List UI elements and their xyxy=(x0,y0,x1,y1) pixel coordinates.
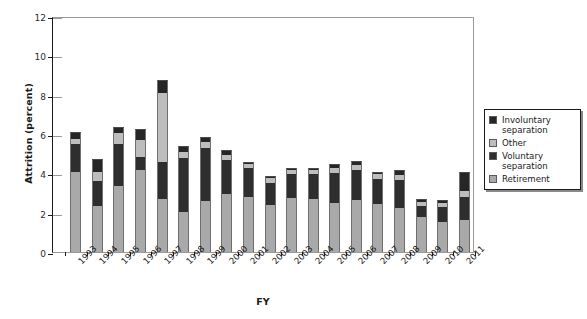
legend-swatch-icon xyxy=(489,152,497,160)
plot-area: 024681012 xyxy=(52,17,474,253)
bar-segment xyxy=(135,157,146,171)
bar-segment xyxy=(459,172,470,191)
y-axis-tick-inner xyxy=(53,175,62,176)
bar-segment xyxy=(70,144,81,173)
y-axis-tick-label: 12 xyxy=(35,13,46,23)
bar-segment xyxy=(286,174,297,198)
legend-item-label: Other xyxy=(502,138,526,148)
bar-segment xyxy=(157,199,168,252)
bar-1999 xyxy=(200,137,211,252)
legend-item-label: Voluntary separation xyxy=(502,151,576,171)
bar-segment xyxy=(113,186,124,252)
bar-1996 xyxy=(135,129,146,252)
legend-item: Voluntary separation xyxy=(489,151,576,171)
y-axis-tick-label: 10 xyxy=(35,52,46,62)
legend-swatch-icon xyxy=(489,139,497,147)
bar-segment xyxy=(157,162,168,199)
bar-segment xyxy=(372,204,383,252)
legend-item: Other xyxy=(489,138,576,148)
bar-segment xyxy=(329,173,340,203)
bar-2010 xyxy=(437,200,448,252)
y-axis-tick-label: 0 xyxy=(40,249,46,259)
chart-figure: Attrition (percent) FY 024681012 Involun… xyxy=(0,0,587,319)
legend-swatch-icon xyxy=(489,175,497,183)
chart-legend: Involuntary separationOtherVoluntary sep… xyxy=(484,109,581,190)
y-axis-tick-inner xyxy=(53,215,62,216)
legend-swatch-icon xyxy=(489,116,497,124)
y-axis-tick-inner xyxy=(53,136,62,137)
bar-1998 xyxy=(178,146,189,252)
bar-2011 xyxy=(459,172,470,252)
bar-segment xyxy=(308,174,319,199)
bar-segment xyxy=(135,140,146,157)
bar-1995 xyxy=(113,127,124,252)
bar-segment xyxy=(243,168,254,197)
bar-segment xyxy=(437,207,448,222)
x-axis-tick xyxy=(65,252,66,256)
bar-segment xyxy=(200,148,211,201)
bar-segment xyxy=(200,201,211,252)
bar-segment xyxy=(92,172,103,181)
bar-segment xyxy=(135,129,146,140)
bar-segment xyxy=(265,205,276,252)
bar-segment xyxy=(221,194,232,252)
legend-item: Retirement xyxy=(489,174,576,184)
y-axis-title: Attrition (percent) xyxy=(23,54,34,214)
bar-segment xyxy=(178,158,189,212)
bar-segment xyxy=(351,170,362,200)
y-axis-tick-label: 2 xyxy=(40,210,46,220)
bar-segment xyxy=(286,198,297,252)
bar-2005 xyxy=(329,164,340,252)
legend-item: Involuntary separation xyxy=(489,115,576,135)
bar-segment xyxy=(416,206,427,217)
bar-segment xyxy=(157,93,168,162)
bar-segment xyxy=(113,144,124,186)
bar-segment xyxy=(157,80,168,93)
y-axis-tick-inner xyxy=(53,18,62,19)
bar-segment xyxy=(308,199,319,252)
bar-2001 xyxy=(243,162,254,252)
bar-1994 xyxy=(92,159,103,252)
y-axis-tick-label: 6 xyxy=(40,131,46,141)
bar-segment xyxy=(221,160,232,194)
bar-segment xyxy=(92,181,103,206)
bar-segment xyxy=(459,197,470,220)
bar-2007 xyxy=(372,172,383,252)
bar-segment xyxy=(372,179,383,204)
bar-segment xyxy=(70,132,81,139)
bar-segment xyxy=(135,170,146,252)
bar-segment xyxy=(70,172,81,252)
y-axis-tick-inner xyxy=(53,97,62,98)
bar-segment xyxy=(265,183,276,205)
bar-2002 xyxy=(265,176,276,252)
legend-item-label: Retirement xyxy=(502,174,550,184)
bar-2000 xyxy=(221,150,232,252)
legend-item-label: Involuntary separation xyxy=(502,115,576,135)
bar-2009 xyxy=(416,199,427,252)
bar-segment xyxy=(92,159,103,173)
bar-2004 xyxy=(308,168,319,252)
y-axis-tick-inner xyxy=(53,57,62,58)
bar-segment xyxy=(351,200,362,252)
bar-2006 xyxy=(351,161,362,252)
bar-2003 xyxy=(286,168,297,252)
bar-segment xyxy=(243,197,254,252)
y-axis-tick-label: 4 xyxy=(40,170,46,180)
bar-1993 xyxy=(70,132,81,252)
x-axis-title: FY xyxy=(52,296,474,307)
bar-1997 xyxy=(157,80,168,252)
bar-segment xyxy=(394,180,405,208)
bar-segment xyxy=(113,133,124,144)
y-axis-tick-label: 8 xyxy=(40,92,46,102)
bar-2008 xyxy=(394,170,405,252)
y-axis-tick xyxy=(48,254,53,255)
bar-segment xyxy=(329,203,340,252)
